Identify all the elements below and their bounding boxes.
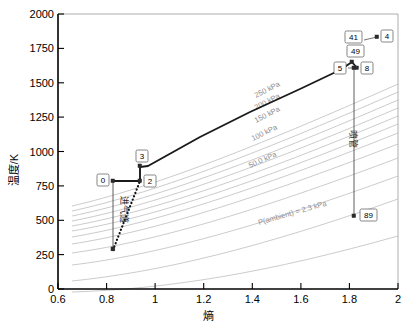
svg-text:1.6: 1.6 <box>293 293 308 305</box>
ts-diagram-figure: 250 kPa 200 kPa 150 kPa 100 kPa 50.0 kPa… <box>0 0 415 330</box>
x-ticks <box>58 283 398 289</box>
svg-text:2: 2 <box>148 177 153 186</box>
callout-3: 3 <box>136 150 148 162</box>
callout-4: 4 <box>381 30 393 42</box>
svg-text:0: 0 <box>101 176 106 185</box>
callout-0: 0 <box>97 174 109 186</box>
chart-canvas: 250 kPa 200 kPa 150 kPa 100 kPa 50.0 kPa… <box>0 0 415 330</box>
marker-point-49 <box>350 60 354 64</box>
svg-text:500: 500 <box>36 214 54 226</box>
marker-point-8 <box>355 66 358 69</box>
svg-text:250: 250 <box>36 249 54 261</box>
marker-point-0 <box>111 179 115 183</box>
callout-41: 41 <box>345 31 362 43</box>
main-cycle-curve <box>113 62 352 181</box>
svg-text:0.6: 0.6 <box>50 293 65 305</box>
marker-point-4 <box>375 35 379 39</box>
svg-text:1: 1 <box>152 293 158 305</box>
x-axis: 0.6 0.8 1 1.2 1.4 1.6 1.8 2 熵 <box>50 283 401 322</box>
svg-text:4: 4 <box>385 32 390 41</box>
inlet-annotation: 进气道 <box>119 196 130 223</box>
callout-5: 5 <box>334 62 346 74</box>
svg-text:5: 5 <box>338 64 343 73</box>
marker-point-3 <box>138 164 142 168</box>
isobar-curves <box>72 84 398 292</box>
svg-text:750: 750 <box>36 180 54 192</box>
callout-49: 49 <box>347 45 364 57</box>
svg-text:0.8: 0.8 <box>99 293 114 305</box>
y-axis: 2000 1750 1500 1250 1000 750 500 250 0 温… <box>7 8 64 295</box>
svg-text:1.4: 1.4 <box>245 293 260 305</box>
svg-text:1.8: 1.8 <box>342 293 357 305</box>
marker-point-89 <box>352 214 356 218</box>
callout-89: 89 <box>360 209 377 221</box>
callout-8: 8 <box>361 62 373 74</box>
y-ticks <box>58 14 64 289</box>
svg-text:3: 3 <box>140 152 145 161</box>
x-axis-title: 熵 <box>203 309 214 322</box>
marker-point-freestream <box>111 247 115 251</box>
x-tick-labels: 0.6 0.8 1 1.2 1.4 1.6 1.8 2 <box>50 293 401 305</box>
svg-text:89: 89 <box>364 211 373 220</box>
y-tick-labels: 2000 1750 1500 1250 1000 750 500 250 0 <box>30 8 54 295</box>
ambient-pressure-label: P(ambient) = 2.3 kPa <box>257 199 328 227</box>
svg-text:41: 41 <box>349 33 358 42</box>
callout-2: 2 <box>144 175 156 187</box>
isobar-label-50: 50.0 kPa <box>247 149 278 170</box>
svg-text:2000: 2000 <box>30 8 54 20</box>
isobar-label-100: 100 kPa <box>250 122 279 143</box>
marker-point-2 <box>138 179 142 183</box>
isobar-labels: 250 kPa 200 kPa 150 kPa 100 kPa 50.0 kPa <box>247 79 282 170</box>
svg-text:49: 49 <box>351 47 360 56</box>
svg-text:8: 8 <box>365 64 370 73</box>
svg-text:1.2: 1.2 <box>196 293 211 305</box>
y-axis-title: 温度/K <box>7 153 20 186</box>
svg-text:1000: 1000 <box>30 146 54 158</box>
svg-text:1500: 1500 <box>30 77 54 89</box>
nozzle-annotation: 喷管 <box>348 130 359 148</box>
svg-text:2: 2 <box>395 293 401 305</box>
svg-text:1750: 1750 <box>30 42 54 54</box>
svg-text:1250: 1250 <box>30 111 54 123</box>
